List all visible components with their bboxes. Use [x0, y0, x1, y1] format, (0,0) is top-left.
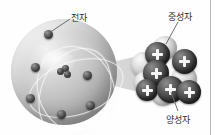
label-electron: 전자	[71, 11, 87, 24]
label-proton: 양성자	[166, 113, 191, 126]
atom-structure-figure: 전자 중성자 양성자	[0, 0, 215, 135]
label-neutron: 중성자	[168, 10, 193, 23]
page-edge-rule	[210, 0, 211, 135]
